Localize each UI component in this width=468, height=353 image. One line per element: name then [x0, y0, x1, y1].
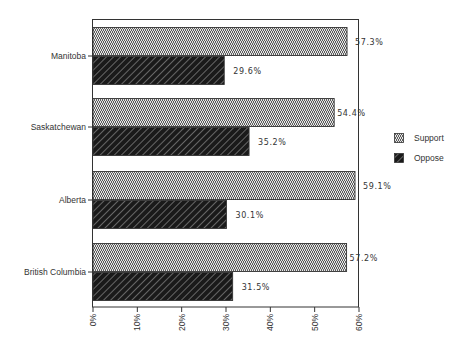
x-tick-label: 20%	[177, 314, 187, 331]
value-label-support: 54.4%	[337, 109, 365, 118]
support-swatch-icon	[395, 134, 404, 143]
oppose-swatch-icon	[395, 154, 404, 163]
bar-support-british-columbia	[93, 244, 347, 272]
x-tick-label: 0%	[88, 314, 98, 327]
x-tick-label: 50%	[310, 314, 320, 331]
category-label: Alberta	[59, 195, 86, 205]
bar-oppose-manitoba	[93, 57, 224, 85]
value-label-oppose: 30.1%	[235, 211, 263, 220]
legend: Support Oppose	[395, 133, 445, 163]
value-label-support: 57.3%	[355, 38, 383, 47]
x-tick-label: 60%	[354, 314, 364, 331]
legend-label-support: Support	[414, 133, 444, 143]
bar-oppose-british-columbia	[93, 273, 233, 301]
bar-oppose-alberta	[93, 201, 226, 229]
value-label-support: 59.1%	[363, 182, 391, 191]
legend-item-oppose[interactable]: Oppose	[395, 153, 445, 163]
x-tick-label: 10%	[132, 314, 142, 331]
value-label-oppose: 29.6%	[233, 67, 261, 76]
x-axis: 0%10%20%30%40%50%60%	[88, 307, 364, 331]
value-label-oppose: 31.5%	[242, 283, 270, 292]
bar-support-saskatchewan	[93, 99, 334, 127]
category-label: Saskatchewan	[31, 122, 87, 132]
value-label-oppose: 35.2%	[258, 138, 286, 147]
bar-support-alberta	[93, 172, 355, 200]
legend-label-oppose: Oppose	[414, 153, 444, 163]
category-labels: ManitobaSaskatchewanAlbertaBritish Colum…	[24, 51, 93, 277]
category-label: Manitoba	[51, 51, 86, 61]
bar-chart: ManitobaSaskatchewanAlbertaBritish Colum…	[0, 0, 468, 353]
x-tick-label: 40%	[265, 314, 275, 331]
legend-item-support[interactable]: Support	[395, 133, 445, 143]
value-label-support: 57.2%	[350, 254, 378, 263]
bar-oppose-saskatchewan	[93, 128, 249, 156]
bar-support-manitoba	[93, 28, 347, 56]
category-label: British Columbia	[24, 267, 86, 277]
x-tick-label: 30%	[221, 314, 231, 331]
